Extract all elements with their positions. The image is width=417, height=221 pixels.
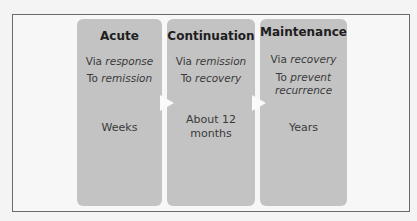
phase-via: Via response — [77, 55, 162, 67]
phase-acute: Acute Via response To remission Weeks — [77, 19, 162, 206]
phase-duration: About 12 months — [181, 113, 241, 141]
arrow-right-icon — [252, 95, 266, 111]
phase-to: To recovery — [167, 72, 255, 84]
phase-to-cont: recurrence — [260, 84, 347, 96]
phase-to: To remission — [77, 72, 162, 84]
phase-to: To prevent — [260, 71, 347, 83]
phase-maintenance: Maintenance Via recovery To prevent recu… — [260, 19, 347, 206]
phase-via: Via recovery — [260, 53, 347, 65]
arrow-right-icon — [160, 95, 174, 111]
phase-duration: Weeks — [77, 121, 162, 135]
phase-via: Via remission — [167, 55, 255, 67]
phase-duration: Years — [260, 121, 347, 135]
phase-title: Continuation — [167, 29, 255, 43]
phase-title: Maintenance — [260, 25, 347, 39]
phase-continuation: Continuation Via remission To recovery A… — [167, 19, 255, 206]
phase-title: Acute — [77, 29, 162, 43]
